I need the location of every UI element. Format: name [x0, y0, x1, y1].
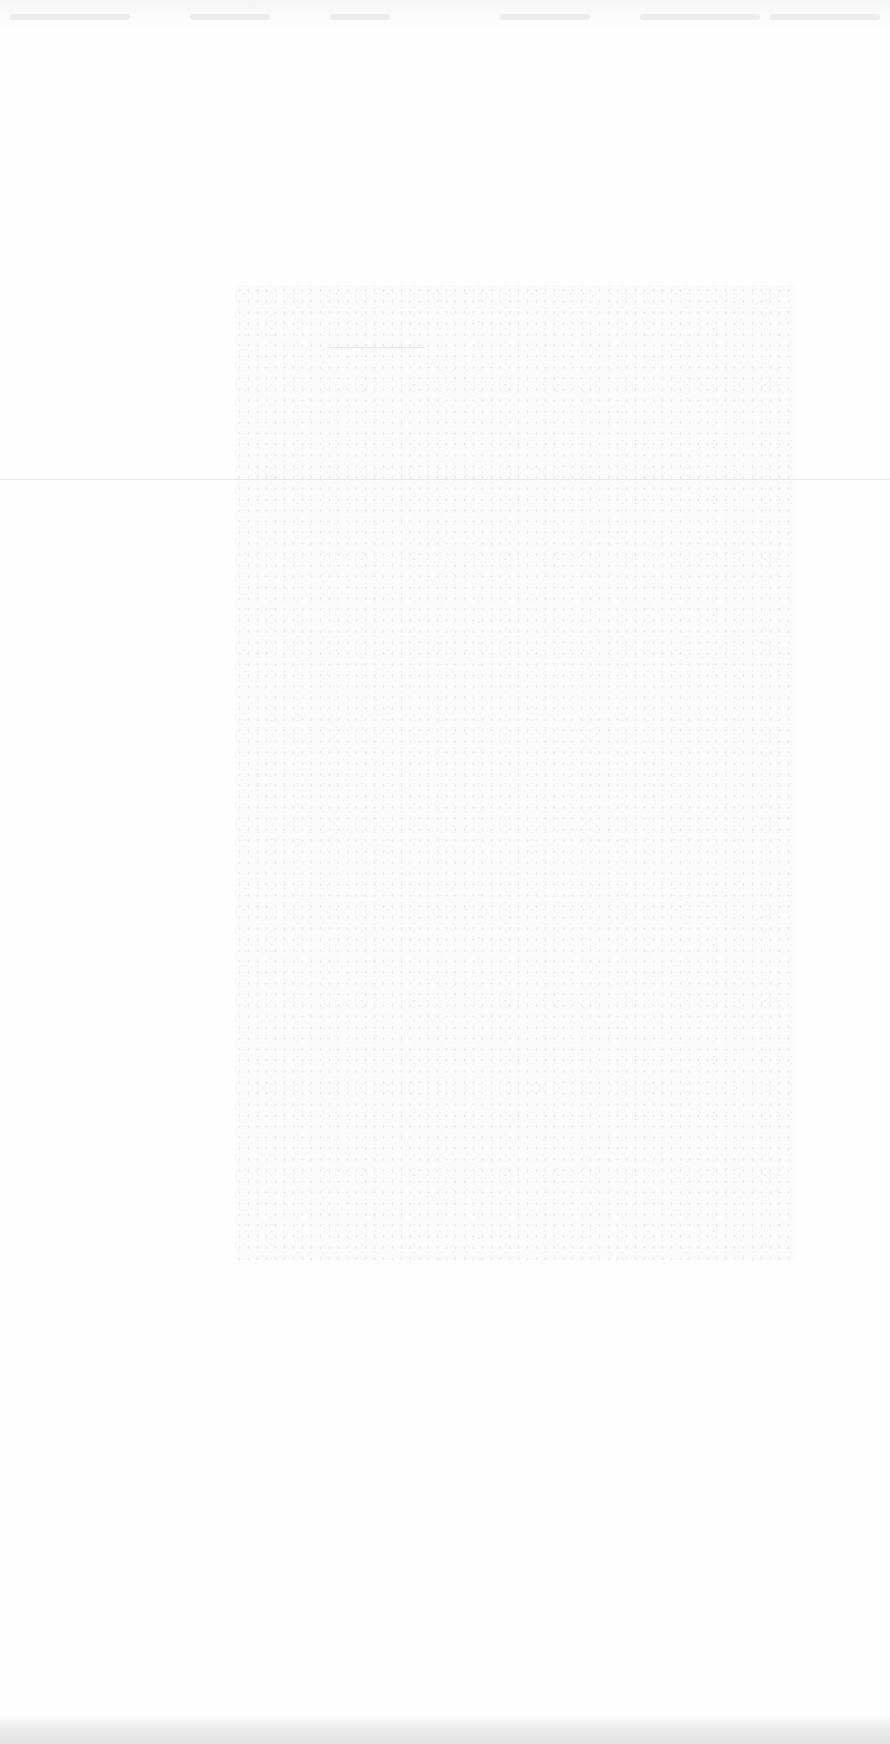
scan-smudge: [640, 14, 760, 20]
scan-smudge: [10, 14, 130, 20]
scan-bottom-edge: [0, 1714, 890, 1744]
faint-horizontal-rule: [0, 479, 890, 480]
faded-text-block: [235, 285, 795, 1260]
scan-smudge: [330, 14, 390, 20]
scan-smudge: [770, 14, 880, 20]
faint-stroke: [330, 347, 425, 348]
scan-smudge: [500, 14, 590, 20]
scan-smudge: [190, 14, 270, 20]
